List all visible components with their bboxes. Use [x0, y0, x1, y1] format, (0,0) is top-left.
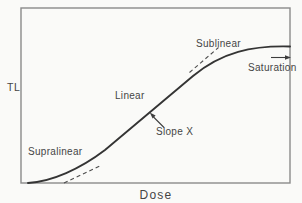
x-axis-label: Dose: [140, 188, 173, 202]
saturation-arrow: [271, 55, 291, 60]
supralinear-label: Supralinear: [28, 146, 83, 157]
linear-label: Linear: [115, 90, 145, 101]
figure-canvas: TL Dose Supralinear Linear Slope X Subli…: [0, 0, 302, 203]
linear-extrapolation-dashed-lower: [64, 166, 101, 184]
slope-label: Slope X: [156, 126, 193, 137]
tl-dose-response-figure: TL Dose Supralinear Linear Slope X Subli…: [0, 0, 302, 203]
y-axis-label: TL: [7, 81, 20, 93]
saturation-label: Saturation: [248, 62, 297, 73]
sublinear-label: Sublinear: [196, 38, 241, 49]
